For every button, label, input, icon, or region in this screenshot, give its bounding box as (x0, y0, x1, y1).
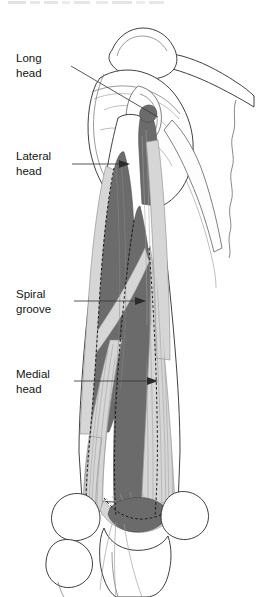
label-spiral-groove: Spiral groove (16, 288, 51, 315)
label-medial-head: Medial head (16, 368, 50, 395)
label-medial-head-line2: head (16, 383, 42, 395)
label-long-head-line2: head (16, 67, 42, 79)
label-spiral-groove-line2: groove (16, 303, 51, 315)
label-long-head: Long head (16, 52, 42, 79)
radius-head-bone (46, 539, 93, 587)
label-medial-head-line1: Medial (16, 368, 50, 380)
label-lateral-head-line2: head (16, 165, 42, 177)
label-spiral-groove-line1: Spiral (16, 288, 45, 300)
cropped-caption-remnant (8, 1, 164, 4)
scapula-cut-edge (229, 100, 236, 258)
anatomy-figure: Long head Lateral head Spiral groove Med… (0, 0, 256, 597)
lateral-epicondyle-bone (52, 493, 101, 540)
label-long-head-line1: Long (16, 52, 42, 64)
medial-epicondyle-bone (161, 491, 209, 539)
olecranon-bone (100, 528, 171, 597)
anatomy-illustration: Long head Lateral head Spiral groove Med… (0, 0, 256, 597)
label-lateral-head-line1: Lateral (16, 150, 51, 162)
label-lateral-head: Lateral head (16, 150, 51, 177)
